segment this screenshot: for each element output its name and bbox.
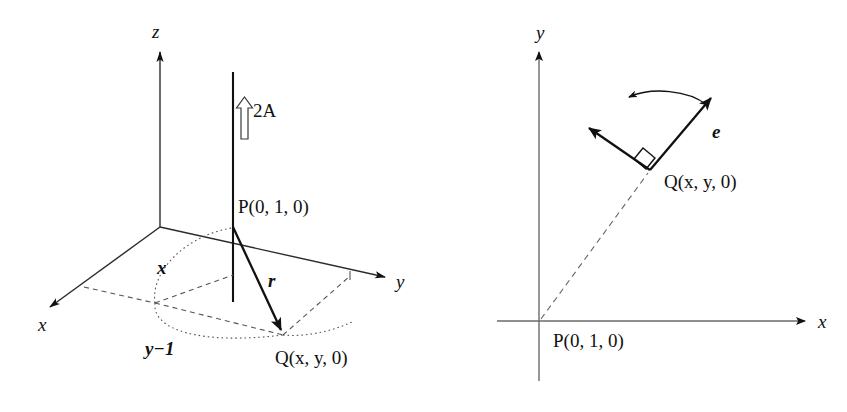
axis-label-y: y [396, 272, 404, 291]
physics-diagram-figure: z y x 2A P(0, 1, 0) Q(x, y, 0) r x y−1 y… [0, 0, 847, 412]
current-value-label: 2A [253, 101, 276, 120]
diagram-canvas [0, 0, 847, 412]
axis-line-x [50, 227, 160, 307]
rotation-arrow-icon [629, 91, 707, 105]
dash-q-to-y-axis [283, 276, 350, 335]
dash-x-axis-to-corner [84, 287, 155, 303]
right-panel-axes [497, 52, 805, 381]
vector-field-line [589, 128, 650, 170]
left-panel-projection-dashes [84, 275, 350, 335]
vector-label-r: r [268, 271, 275, 290]
field-vector-arrow [589, 128, 650, 170]
dash-corner-to-origin-proj [155, 275, 233, 303]
current-direction-arrow-icon [237, 97, 253, 139]
vector-e-line [650, 98, 711, 170]
vector-label-e: e [712, 122, 720, 141]
point-label-q-3d: Q(x, y, 0) [275, 348, 348, 367]
axis-label-y-2d: y [536, 23, 544, 42]
dash-corner-to-q [155, 303, 283, 335]
point-label-p-2d: P(0, 1, 0) [553, 331, 624, 350]
point-label-q-2d: Q(x, y, 0) [664, 172, 737, 191]
left-panel-axes [50, 52, 385, 307]
distance-label-x: x [157, 258, 167, 277]
axis-label-z: z [152, 22, 159, 41]
left-panel-distance-arcs [155, 228, 352, 338]
right-panel-radial-dash [541, 173, 648, 319]
dash-p-to-q [541, 173, 648, 319]
unit-vector-e-arrow [650, 98, 711, 170]
axis-label-x-2d: x [818, 312, 826, 331]
arc-dotted-q-extension [283, 322, 352, 335]
distance-label-y-minus-1: y−1 [145, 339, 174, 358]
axis-label-x: x [38, 315, 46, 334]
point-label-p-3d: P(0, 1, 0) [238, 197, 309, 216]
